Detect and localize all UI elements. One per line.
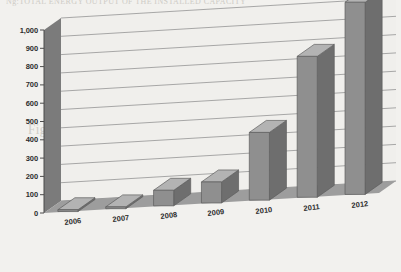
bar-front-face [154, 190, 174, 206]
bar-column[interactable] [297, 44, 334, 197]
y-axis-tick-label: 300 [4, 154, 38, 163]
y-axis-tick-label: 900 [4, 44, 38, 53]
y-axis-tick-label: 600 [4, 99, 38, 108]
x-axis-category-label: 2012 [351, 199, 369, 210]
y-axis-tick-label: 100 [4, 190, 38, 199]
y-axis-tick-label: 700 [4, 80, 38, 89]
y-axis-tick-label: 1,000 [4, 26, 38, 35]
x-axis-category-label: 2011 [303, 202, 320, 213]
chart-canvas [0, 0, 401, 272]
x-axis-category-label: 2010 [255, 204, 273, 215]
y-axis-tick-label: 500 [4, 117, 38, 126]
y-axis-tick-label: 800 [4, 62, 38, 71]
y-axis-tick-label: 200 [4, 172, 38, 181]
plot-left-wall [44, 18, 61, 213]
bar-side-face [365, 0, 382, 194]
bar-front-face [249, 132, 269, 200]
y-axis-tick-label: 400 [4, 135, 38, 144]
bar-column[interactable] [345, 0, 382, 194]
bar-front-face [297, 56, 317, 197]
bar-side-face [269, 120, 286, 200]
bar-front-face [58, 210, 78, 212]
y-axis-tick-label: 0 [4, 209, 38, 218]
bar-front-face [201, 182, 221, 203]
bar-side-face [317, 44, 334, 197]
bar-front-face [106, 207, 126, 209]
bar-column[interactable] [249, 120, 286, 200]
bar-front-face [345, 2, 365, 194]
bar-chart: 20062007200820092010201120121,0009008007… [0, 0, 401, 272]
